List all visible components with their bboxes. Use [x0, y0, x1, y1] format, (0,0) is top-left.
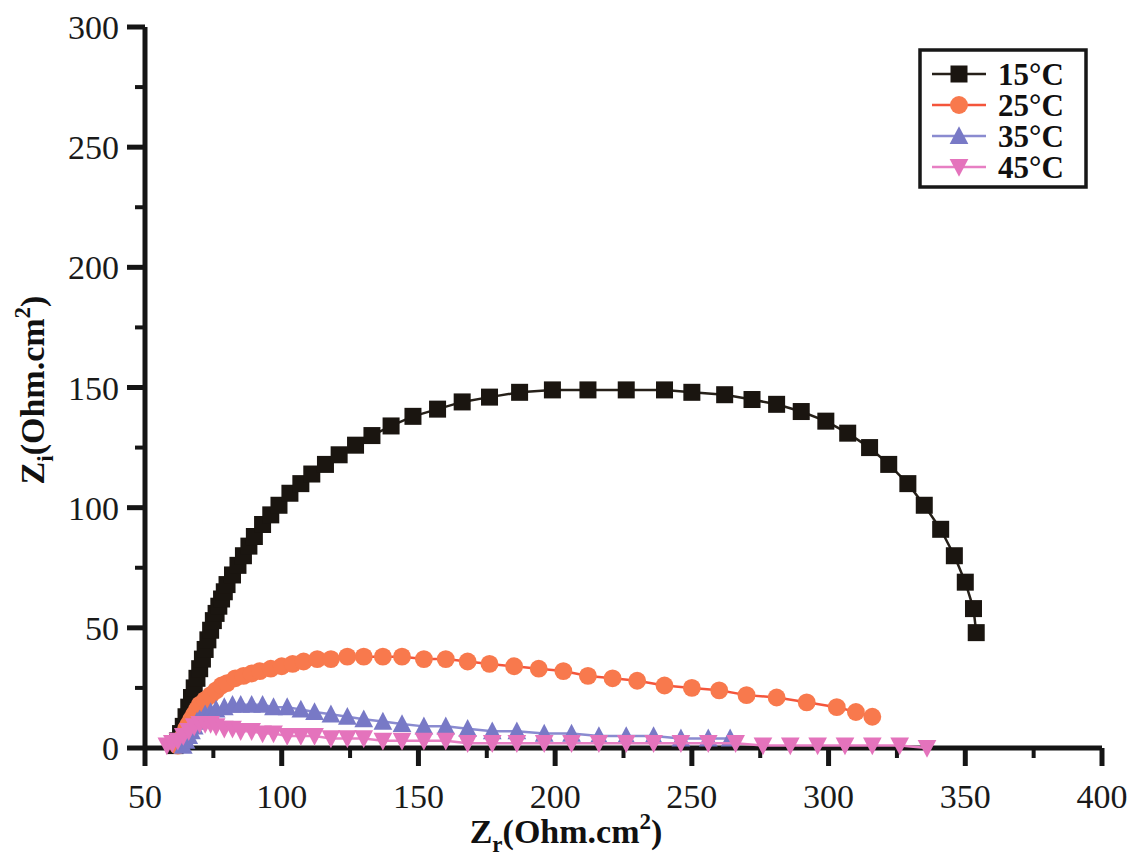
marker-square — [968, 624, 985, 641]
marker-square — [946, 547, 963, 564]
marker-circle — [683, 679, 701, 697]
marker-square — [957, 574, 974, 591]
marker-circle — [604, 669, 622, 687]
marker-square — [932, 521, 949, 538]
y-tick-label: 300 — [68, 9, 119, 46]
marker-circle — [554, 662, 572, 680]
legend-label: 15°C — [998, 57, 1064, 92]
marker-circle — [628, 672, 646, 690]
series-45C — [158, 716, 937, 758]
marker-square — [965, 600, 982, 617]
marker-square — [744, 391, 761, 408]
marker-circle — [437, 650, 455, 668]
marker-square — [817, 413, 834, 430]
marker-square — [951, 66, 968, 83]
marker-circle — [738, 686, 756, 704]
marker-circle — [847, 703, 865, 721]
marker-square — [347, 437, 364, 454]
series-15C — [167, 381, 985, 754]
x-tick-label: 50 — [128, 778, 162, 815]
marker-square — [429, 401, 446, 418]
series-line — [175, 390, 976, 746]
x-tick-label: 400 — [1077, 778, 1128, 815]
marker-square — [363, 427, 380, 444]
x-tick-label: 100 — [256, 778, 307, 815]
marker-square — [793, 403, 810, 420]
y-tick-label: 100 — [68, 490, 119, 527]
marker-circle — [863, 708, 881, 726]
x-axis-tick-labels: 50100150200250300350400 — [128, 778, 1128, 815]
x-tick-label: 350 — [940, 778, 991, 815]
marker-square — [331, 446, 348, 463]
marker-square — [481, 389, 498, 406]
marker-square — [618, 381, 635, 398]
marker-square — [768, 396, 785, 413]
y-tick-label: 250 — [68, 129, 119, 166]
marker-circle — [798, 693, 816, 711]
marker-square — [916, 497, 933, 514]
legend-label: 25°C — [998, 88, 1064, 123]
marker-square — [839, 425, 856, 442]
marker-circle — [355, 648, 373, 666]
marker-square — [544, 381, 561, 398]
marker-square — [579, 381, 596, 398]
marker-square — [899, 475, 916, 492]
marker-square — [861, 439, 878, 456]
marker-circle — [768, 689, 786, 707]
x-tick-label: 300 — [803, 778, 854, 815]
x-axis-title: Zr(Ohm.cm2) — [470, 809, 663, 857]
y-axis-title: Zi(Ohm.cm2) — [10, 296, 58, 485]
marker-circle — [374, 648, 392, 666]
data-series-group — [158, 381, 985, 757]
nyquist-plot: 50100150200250300350400 0501001502002503… — [0, 0, 1133, 859]
marker-square — [683, 384, 700, 401]
marker-circle — [393, 648, 411, 666]
marker-square — [656, 381, 673, 398]
x-tick-label: 250 — [666, 778, 717, 815]
marker-circle — [530, 660, 548, 678]
y-axis-tick-labels: 050100150200250300 — [68, 9, 119, 767]
y-tick-label: 200 — [68, 249, 119, 286]
x-tick-label: 150 — [393, 778, 444, 815]
y-tick-label: 50 — [85, 610, 119, 647]
chart-root: 50100150200250300350400 0501001502002503… — [0, 0, 1133, 859]
marker-circle — [459, 653, 477, 671]
y-tick-label: 150 — [68, 370, 119, 407]
marker-circle — [322, 650, 340, 668]
marker-circle — [481, 655, 499, 673]
marker-square — [716, 386, 733, 403]
marker-circle — [950, 96, 968, 114]
svg-text:Zi(Ohm.cm2): Zi(Ohm.cm2) — [10, 296, 58, 485]
svg-text:Zr(Ohm.cm2): Zr(Ohm.cm2) — [470, 809, 663, 857]
marker-circle — [656, 677, 674, 695]
marker-square — [511, 384, 528, 401]
legend-label: 45°C — [998, 150, 1064, 185]
marker-circle — [505, 657, 523, 675]
marker-square — [383, 417, 400, 434]
y-tick-label: 0 — [102, 730, 119, 767]
marker-circle — [710, 681, 728, 699]
marker-circle — [338, 648, 356, 666]
marker-circle — [579, 667, 597, 685]
marker-circle — [415, 650, 433, 668]
marker-square — [880, 456, 897, 473]
legend-label: 35°C — [998, 119, 1064, 154]
y-axis-ticks — [127, 27, 145, 748]
marker-circle — [828, 698, 846, 716]
marker-square — [404, 408, 421, 425]
x-tick-label: 200 — [530, 778, 581, 815]
legend-box: 15°C25°C35°C45°C — [920, 50, 1086, 187]
marker-square — [454, 393, 471, 410]
x-axis-ticks — [145, 748, 1102, 766]
